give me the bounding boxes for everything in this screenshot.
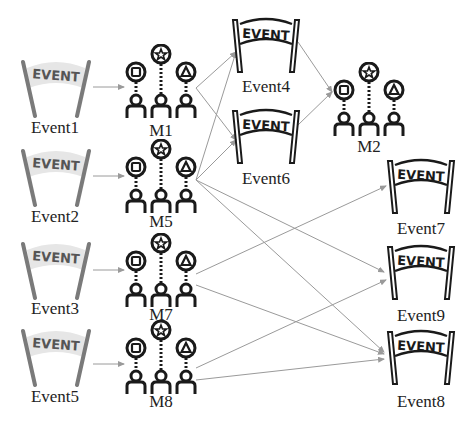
event-banner-icon: EVENT — [17, 325, 95, 387]
event6-label: Event6 — [216, 170, 316, 188]
event-banner-icon: EVENT — [228, 14, 304, 76]
target-event-event6: EVENT — [228, 105, 304, 167]
event-banner-icon: EVENT — [17, 238, 95, 300]
mechanism-m1 — [125, 44, 197, 120]
event-banner-icon: EVENT — [17, 56, 95, 118]
svg-text:EVENT: EVENT — [242, 26, 290, 43]
target-event-event8: EVENT — [383, 326, 459, 388]
target-event-event4: EVENT — [228, 14, 304, 76]
edge-m8-event8 — [196, 359, 384, 380]
event2-label: Event2 — [5, 208, 105, 226]
svg-text:EVENT: EVENT — [397, 253, 445, 270]
event-banner-icon: EVENT — [383, 155, 459, 217]
edge-m7-event8 — [196, 285, 384, 354]
people-group-icon — [333, 62, 405, 138]
m2-label: M2 — [319, 138, 419, 156]
source-event-event1: EVENT — [17, 56, 95, 118]
target-event-event7: EVENT — [383, 155, 459, 217]
svg-text:EVENT: EVENT — [397, 167, 445, 184]
event8-label: Event8 — [371, 393, 470, 411]
event7-label: Event7 — [371, 220, 470, 238]
event9-label: Event9 — [371, 307, 470, 325]
people-group-icon — [125, 320, 197, 396]
target-event-event9: EVENT — [383, 241, 459, 303]
m1-label: M1 — [111, 122, 211, 140]
svg-text:EVENT: EVENT — [397, 338, 445, 355]
mechanism-m8 — [125, 320, 197, 396]
source-event-event5: EVENT — [17, 325, 95, 387]
event-banner-icon: EVENT — [383, 241, 459, 303]
source-event-event2: EVENT — [17, 145, 95, 207]
m5-label: M5 — [111, 213, 211, 231]
edge-m5-event9 — [196, 180, 384, 272]
people-group-icon — [125, 44, 197, 120]
event5-label: Event5 — [5, 388, 105, 406]
mechanism-m5 — [125, 139, 197, 215]
mechanism-m2 — [333, 62, 405, 138]
people-group-icon — [125, 139, 197, 215]
edge-m7-event7 — [196, 186, 386, 274]
event3-label: Event3 — [5, 300, 105, 318]
people-group-icon — [125, 233, 197, 309]
event4-label: Event4 — [216, 78, 316, 96]
event-banner-icon: EVENT — [383, 326, 459, 388]
svg-text:EVENT: EVENT — [242, 117, 290, 134]
event1-label: Event1 — [5, 119, 105, 137]
mechanism-m7 — [125, 233, 197, 309]
edge-m5-event8 — [196, 180, 384, 352]
event-banner-icon: EVENT — [17, 145, 95, 207]
event-banner-icon: EVENT — [228, 105, 304, 167]
diagram-canvas: EVENT Event1 EVENT Event2 EVENT Event3 E… — [0, 0, 470, 433]
source-event-event3: EVENT — [17, 238, 95, 300]
edge-m8-event9 — [196, 280, 386, 368]
m8-label: M8 — [111, 393, 211, 411]
